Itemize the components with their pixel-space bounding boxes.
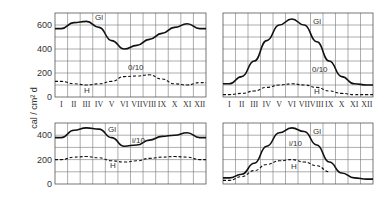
series-annotation: Gl xyxy=(108,125,116,134)
x-tick-label: IX xyxy=(325,100,334,109)
x-tick-label: I xyxy=(228,100,231,109)
panel-bottom-left: 0200400Gli/10H xyxy=(37,123,206,189)
series-annotation: Gl xyxy=(95,13,103,22)
chart-canvas: 0200400600IIIIIIIVVVIVIIVIIIIXXXIXIIGl0/… xyxy=(0,0,389,197)
x-tick-label: VII xyxy=(299,100,310,109)
x-tick-label: I xyxy=(60,100,63,109)
x-tick-label: III xyxy=(250,100,258,109)
y-tick-label: 200 xyxy=(37,155,52,165)
panel-top-right: IIIIIIIVVVIVIIVIIIIXXXIXIIGl0/10H xyxy=(223,13,373,109)
series-annotation: H xyxy=(110,161,116,170)
series-annotation: Gl xyxy=(313,127,321,136)
x-tick-label: IX xyxy=(158,100,167,109)
x-tick-label: V xyxy=(276,100,282,109)
series-annotation: H xyxy=(291,162,297,171)
y-tick-label: 200 xyxy=(37,68,52,78)
x-tick-label: XII xyxy=(361,100,372,109)
x-tick-label: XII xyxy=(194,100,205,109)
x-tick-label: IV xyxy=(95,100,104,109)
y-tick-label: 0 xyxy=(47,92,52,102)
y-axis-label: cal / cm² d xyxy=(29,87,39,129)
x-tick-label: VI xyxy=(120,100,129,109)
x-tick-label: VI xyxy=(288,100,297,109)
series-annotation: H xyxy=(314,87,320,96)
x-tick-label: VIII xyxy=(310,100,324,109)
series-annotation: i/10 xyxy=(132,136,145,145)
panel-bottom-right: Gli/10H xyxy=(223,123,373,184)
x-tick-label: III xyxy=(82,100,90,109)
series-annotation: H xyxy=(84,86,90,95)
x-tick-label: II xyxy=(239,100,245,109)
series-annotation: 0/10 xyxy=(128,63,144,72)
series-annotation: 0/10 xyxy=(312,65,328,74)
y-tick-label: 400 xyxy=(37,44,52,54)
series-h-line xyxy=(223,160,329,181)
x-tick-label: II xyxy=(71,100,77,109)
panel-top-left: 0200400600IIIIIIIVVVIVIIVIIIIXXXIXIIGl0/… xyxy=(37,13,206,109)
x-tick-label: VII xyxy=(131,100,142,109)
x-tick-label: VIII xyxy=(142,100,156,109)
x-tick-label: X xyxy=(339,100,345,109)
x-tick-label: X xyxy=(172,100,178,109)
x-tick-label: IV xyxy=(263,100,272,109)
y-tick-label: 0 xyxy=(47,179,52,189)
series-annotation: i/10 xyxy=(289,139,302,148)
x-tick-label: V xyxy=(109,100,115,109)
y-tick-label: 400 xyxy=(37,130,52,140)
x-tick-label: XI xyxy=(350,100,359,109)
series-annotation: Gl xyxy=(313,17,321,26)
y-tick-label: 600 xyxy=(37,20,52,30)
x-tick-label: XI xyxy=(183,100,192,109)
